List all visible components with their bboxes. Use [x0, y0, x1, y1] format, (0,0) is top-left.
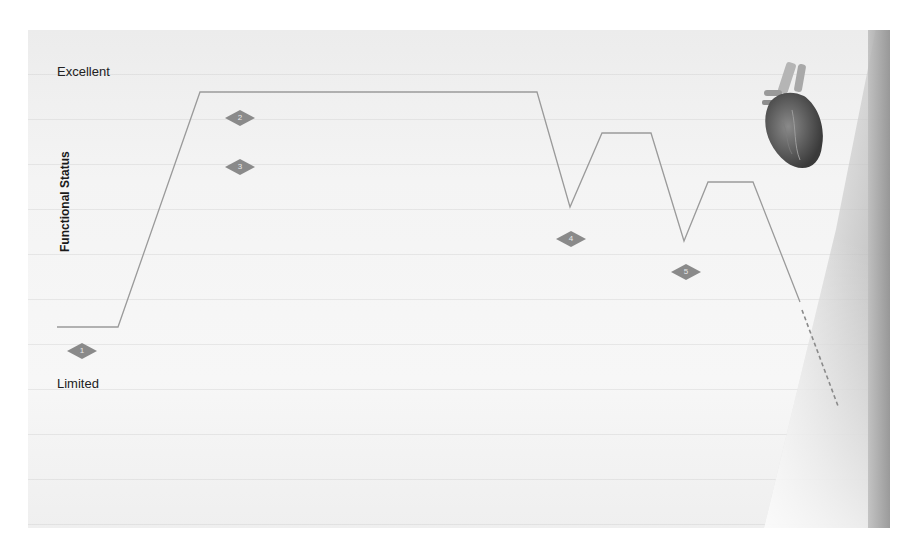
stage-marker-5: 5: [671, 264, 701, 280]
stage-marker-4: 4: [556, 231, 586, 247]
stage-marker-2: 2: [225, 110, 255, 126]
trajectory-line: [57, 92, 800, 327]
stage-marker-number: 2: [238, 114, 242, 122]
stage-marker-number: 4: [569, 235, 573, 243]
stage-marker-3: 3: [225, 159, 255, 175]
stage-marker-number: 1: [80, 347, 84, 355]
trajectory-projection-dashed: [802, 310, 838, 406]
stage-marker-1: 1: [67, 343, 97, 359]
heart-image: [752, 50, 832, 180]
stage-marker-number: 5: [684, 268, 688, 276]
stage-marker-number: 3: [238, 163, 242, 171]
